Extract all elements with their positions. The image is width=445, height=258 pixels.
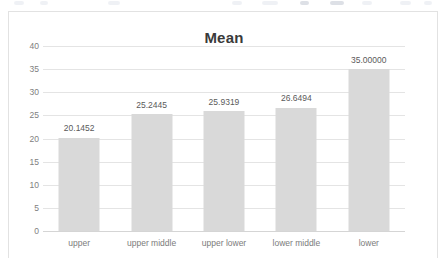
bar[interactable] <box>203 111 244 231</box>
y-axis-tick-label: 25 <box>13 111 39 120</box>
y-axis-tick-label: 20 <box>13 134 39 143</box>
bar-data-label: 25.9319 <box>209 98 240 107</box>
bar-slot: 20.1452 <box>43 46 115 231</box>
bar[interactable] <box>348 69 389 231</box>
bar[interactable] <box>131 114 172 231</box>
bar-data-label: 20.1452 <box>64 124 95 133</box>
y-axis-tick-label: 40 <box>13 42 39 51</box>
bar-slot: 26.6494 <box>260 46 332 231</box>
gridline <box>43 231 405 232</box>
bar-data-label: 25.2445 <box>136 101 167 110</box>
bar-data-label: 26.6494 <box>281 94 312 103</box>
x-axis-category-label: upper lower <box>188 239 260 248</box>
bar[interactable] <box>59 138 100 231</box>
bar[interactable] <box>276 108 317 231</box>
y-axis-tick-label: 35 <box>13 65 39 74</box>
x-axis-category-label: lower middle <box>260 239 332 248</box>
x-axis-category-label: upper <box>43 239 115 248</box>
chart-title: Mean <box>9 29 439 46</box>
plot-area: 20.145225.244525.931926.649435.00000 <box>43 46 405 231</box>
y-axis-tick-label: 30 <box>13 88 39 97</box>
bar-data-label: 35.00000 <box>351 56 386 65</box>
y-axis-tick-label: 10 <box>13 181 39 190</box>
x-axis-category-label: lower <box>333 239 405 248</box>
y-axis-tick-label: 5 <box>13 204 39 213</box>
bar-slot: 25.9319 <box>188 46 260 231</box>
y-axis-tick-label: 15 <box>13 157 39 166</box>
bar-slot: 35.00000 <box>333 46 405 231</box>
clipped-top-artifact <box>0 0 445 9</box>
x-axis: upperupper middleupper lowerlower middle… <box>43 233 405 258</box>
x-axis-category-label: upper middle <box>115 239 187 248</box>
y-axis: 0510152025303540 <box>9 46 39 231</box>
y-axis-tick-label: 0 <box>13 227 39 236</box>
bar-slot: 25.2445 <box>115 46 187 231</box>
bar-series: 20.145225.244525.931926.649435.00000 <box>43 46 405 231</box>
chart-container[interactable]: Mean 0510152025303540 20.145225.244525.9… <box>8 11 438 258</box>
